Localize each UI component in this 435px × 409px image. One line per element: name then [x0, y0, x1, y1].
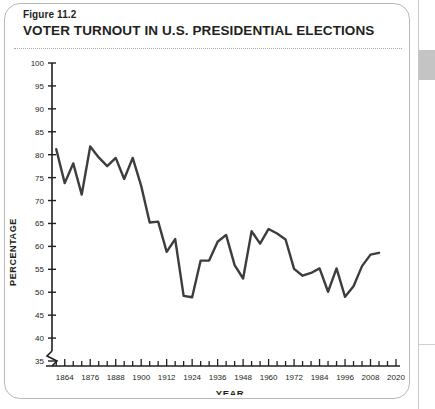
- x-tick-label-1912: 1912: [158, 373, 176, 382]
- y-tick-label-90: 90: [35, 105, 44, 114]
- x-tick-label-1876: 1876: [81, 373, 99, 382]
- x-tick-label-1972: 1972: [285, 373, 303, 382]
- figure-page: Figure 11.2 VOTER TURNOUT IN U.S. PRESID…: [0, 0, 435, 409]
- x-tick-label-1888: 1888: [107, 373, 125, 382]
- x-tick-label-2008: 2008: [362, 373, 380, 382]
- y-axis-break-icon: [47, 351, 57, 366]
- y-tick-label-65: 65: [35, 219, 44, 228]
- x-tick-label-1948: 1948: [234, 373, 252, 382]
- x-tick-label-2020: 2020: [387, 373, 405, 382]
- y-tick-label-95: 95: [35, 82, 44, 91]
- line-chart: 35404550556065707580859095100PERCENTAGE1…: [0, 55, 418, 395]
- y-tick-label-100: 100: [31, 59, 45, 68]
- x-tick-label-1936: 1936: [209, 373, 227, 382]
- chart-area: 35404550556065707580859095100PERCENTAGE1…: [0, 55, 418, 395]
- figure-number: Figure 11.2: [23, 9, 76, 20]
- x-tick-label-1996: 1996: [336, 373, 354, 382]
- y-tick-label-55: 55: [35, 265, 44, 274]
- y-tick-label-40: 40: [35, 334, 44, 343]
- y-axis-title: PERCENTAGE: [8, 218, 18, 286]
- y-tick-label-80: 80: [35, 151, 44, 160]
- y-tick-label-85: 85: [35, 128, 44, 137]
- y-tick-label-50: 50: [35, 288, 44, 297]
- title-divider: [14, 48, 402, 49]
- x-tick-label-1924: 1924: [183, 373, 201, 382]
- x-axis-title: YEAR: [216, 388, 244, 395]
- turnout-series-line: [56, 146, 379, 297]
- page-edge-divider: [419, 344, 435, 345]
- x-tick-label-1960: 1960: [260, 373, 278, 382]
- page-edge-tab: [419, 50, 435, 80]
- y-tick-label-60: 60: [35, 242, 44, 251]
- x-tick-label-1900: 1900: [132, 373, 150, 382]
- y-tick-label-70: 70: [35, 197, 44, 206]
- y-tick-label-45: 45: [35, 311, 44, 320]
- y-tick-label-35: 35: [35, 357, 44, 366]
- figure-title: VOTER TURNOUT IN U.S. PRESIDENTIAL ELECT…: [23, 23, 374, 38]
- y-tick-label-75: 75: [35, 174, 44, 183]
- x-tick-label-1984: 1984: [311, 373, 329, 382]
- x-tick-label-1864: 1864: [56, 373, 74, 382]
